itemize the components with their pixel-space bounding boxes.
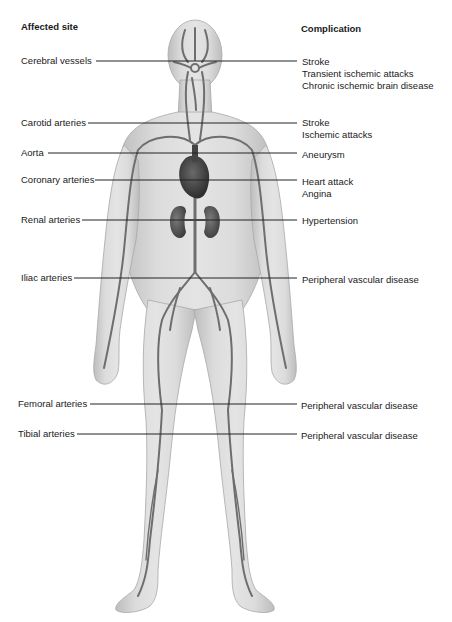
complication-header: Complication	[301, 23, 361, 34]
complication-tibial: Peripheral vascular disease	[301, 430, 418, 442]
complication-aorta: Aneurysm	[302, 149, 345, 161]
complication-carotid: Stroke Ischemic attacks	[302, 117, 372, 141]
complication-item: Chronic ischemic brain disease	[302, 80, 433, 92]
complication-item: Stroke	[302, 56, 433, 68]
complication-femoral: Peripheral vascular disease	[301, 400, 418, 412]
complication-renal: Hypertension	[302, 215, 358, 227]
site-label-tibial: Tibial arteries	[18, 428, 75, 440]
complication-item: Transient ischemic attacks	[302, 68, 433, 80]
complication-item: Stroke	[302, 117, 372, 129]
complication-item: Heart attack	[302, 176, 353, 188]
complication-item: Aneurysm	[302, 149, 345, 161]
complication-item: Ischemic attacks	[302, 129, 372, 141]
site-label-coronary: Coronary arteries	[21, 174, 94, 186]
site-label-cerebral: Cerebral vessels	[21, 55, 92, 67]
complication-item: Angina	[302, 188, 353, 200]
complication-coronary: Heart attack Angina	[302, 176, 353, 200]
anatomy-figure	[0, 0, 452, 622]
complication-item: Peripheral vascular disease	[301, 430, 418, 442]
site-label-aorta: Aorta	[21, 147, 44, 159]
complication-iliac: Peripheral vascular disease	[302, 274, 419, 286]
affected-site-header: Affected site	[21, 21, 78, 32]
site-label-femoral: Femoral arteries	[18, 398, 87, 410]
complication-item: Peripheral vascular disease	[301, 400, 418, 412]
complication-item: Peripheral vascular disease	[302, 274, 419, 286]
site-label-renal: Renal arteries	[21, 214, 80, 226]
site-label-iliac: Iliac arteries	[21, 272, 72, 284]
complication-item: Hypertension	[302, 215, 358, 227]
complication-cerebral: Stroke Transient ischemic attacks Chroni…	[302, 56, 433, 92]
site-label-carotid: Carotid arteries	[21, 117, 86, 129]
